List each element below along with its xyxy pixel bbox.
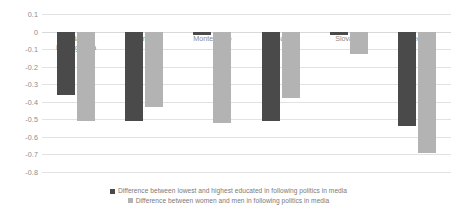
y-axis-tick-label: -0.6 bbox=[6, 133, 38, 140]
bar bbox=[145, 32, 163, 107]
bar bbox=[418, 32, 436, 153]
bar-group bbox=[42, 14, 110, 172]
legend-label: Difference between women and men in foll… bbox=[136, 198, 330, 205]
bar bbox=[213, 32, 231, 123]
legend-swatch-icon bbox=[110, 189, 115, 194]
bar-group bbox=[315, 14, 383, 172]
bar bbox=[262, 32, 280, 122]
bar bbox=[57, 32, 75, 95]
chart-legend: Difference between lowest and highest ed… bbox=[0, 188, 457, 204]
y-axis-tick-label: -0.2 bbox=[6, 63, 38, 70]
y-axis-tick-label: -0.3 bbox=[6, 81, 38, 88]
legend-item[interactable]: Difference between lowest and highest ed… bbox=[110, 188, 347, 195]
bar bbox=[282, 32, 300, 99]
y-axis-tick-label: 0.1 bbox=[6, 11, 38, 18]
y-axis-tick-label: -0.1 bbox=[6, 46, 38, 53]
bar-group bbox=[110, 14, 178, 172]
legend-label: Difference between lowest and highest ed… bbox=[118, 188, 347, 195]
bar-group bbox=[247, 14, 315, 172]
y-axis-tick-label: 0 bbox=[6, 28, 38, 35]
bar-group bbox=[383, 14, 451, 172]
bar bbox=[125, 32, 143, 122]
gridline bbox=[42, 172, 451, 173]
legend-swatch-icon bbox=[128, 198, 133, 203]
y-axis-tick-label: -0.7 bbox=[6, 151, 38, 158]
bar bbox=[350, 32, 368, 55]
bar bbox=[77, 32, 95, 122]
bar bbox=[330, 32, 348, 36]
bar bbox=[193, 32, 211, 36]
legend-item[interactable]: Difference between women and men in foll… bbox=[128, 198, 330, 205]
bar bbox=[398, 32, 416, 127]
y-axis-tick-label: -0.4 bbox=[6, 98, 38, 105]
y-axis-tick-label: -0.5 bbox=[6, 116, 38, 123]
y-axis-tick-label: -0.8 bbox=[6, 169, 38, 176]
bar-group bbox=[178, 14, 246, 172]
bar-chart: Bosnia and HerzegovinaSerbiaMontenegroCr… bbox=[0, 0, 457, 223]
plot-area: Bosnia and HerzegovinaSerbiaMontenegroCr… bbox=[42, 14, 451, 172]
